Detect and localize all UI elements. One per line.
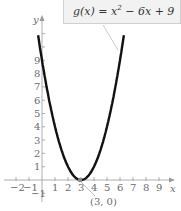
svg-text:5: 5: [104, 182, 110, 193]
vertex-point: [78, 178, 82, 182]
svg-text:1: 1: [34, 161, 40, 172]
y-axis-label: y: [32, 14, 39, 25]
svg-text:−1: −1: [31, 188, 46, 199]
svg-text:1: 1: [52, 182, 58, 193]
svg-text:4: 4: [91, 182, 97, 193]
parabola-chart: −2−1123456789−1123456789 y x (3, 0): [0, 0, 181, 211]
svg-text:3: 3: [34, 135, 40, 146]
svg-text:9: 9: [34, 55, 40, 66]
svg-text:4: 4: [34, 121, 40, 132]
vertex-label: (3, 0): [90, 196, 117, 207]
svg-text:8: 8: [143, 182, 149, 193]
parabola-curve: [38, 35, 124, 180]
svg-text:5: 5: [34, 108, 40, 119]
svg-text:7: 7: [130, 182, 136, 193]
svg-text:9: 9: [156, 182, 162, 193]
svg-text:7: 7: [34, 81, 40, 92]
svg-text:6: 6: [117, 182, 123, 193]
svg-text:2: 2: [34, 148, 40, 159]
svg-text:6: 6: [34, 95, 40, 106]
x-axis-arrow-icon: [169, 178, 175, 183]
equation-leader-line: [103, 25, 118, 50]
y-axis-arrow-icon: [40, 15, 45, 21]
svg-text:3: 3: [78, 182, 84, 193]
svg-text:2: 2: [65, 182, 71, 193]
x-axis-label: x: [170, 183, 176, 194]
svg-text:8: 8: [34, 68, 40, 79]
